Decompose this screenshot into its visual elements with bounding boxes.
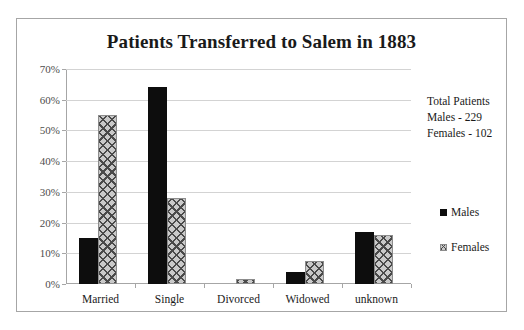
y-tick-label: 50% (40, 124, 60, 136)
legend-entry-females: Females (440, 240, 489, 254)
x-tick-label: Married (82, 293, 119, 305)
x-tick-mark (342, 284, 343, 288)
y-tick-label: 0% (45, 278, 60, 290)
y-tick-label: 60% (40, 94, 60, 106)
legend-label-females: Females (451, 241, 489, 253)
bar-group: Divorced (204, 69, 273, 284)
chart-figure: Patients Transferred to Salem in 1883 70… (0, 0, 524, 330)
annotation-line-males: Males - 229 (427, 109, 492, 125)
x-tick-mark (411, 284, 412, 288)
bar-males-single (148, 87, 167, 284)
bar-females-widowed (305, 261, 324, 284)
plot-area: 70%60%50%40%30%20%10%0% MarriedSingleDiv… (66, 69, 411, 284)
bar-group: Single (135, 69, 204, 284)
x-tick-mark (273, 284, 274, 288)
y-tick-label: 40% (40, 155, 60, 167)
chart-frame: Patients Transferred to Salem in 1883 70… (16, 18, 507, 312)
bar-males-unknown (355, 232, 374, 284)
annotation-line-total: Total Patients (427, 93, 492, 109)
x-tick-label: unknown (355, 293, 398, 305)
x-tick-label: Divorced (217, 293, 260, 305)
bar-females-unknown (374, 235, 393, 284)
x-tick-label: Widowed (285, 293, 329, 305)
bar-females-single (167, 198, 186, 284)
chart-legend: Males Females (440, 205, 489, 275)
totals-annotation: Total Patients Males - 229 Females - 102 (427, 93, 492, 141)
legend-swatch-females-icon (440, 244, 447, 251)
legend-entry-males: Males (440, 205, 489, 219)
bar-group: unknown (342, 69, 411, 284)
bar-males-married (79, 238, 98, 284)
y-tick-label: 70% (40, 63, 60, 75)
y-tick-label: 20% (40, 217, 60, 229)
legend-swatch-males-icon (440, 209, 447, 216)
bar-group: Widowed (273, 69, 342, 284)
y-tick-label: 30% (40, 186, 60, 198)
legend-label-males: Males (451, 206, 479, 218)
annotation-line-females: Females - 102 (427, 125, 492, 141)
x-tick-label: Single (155, 293, 184, 305)
x-tick-mark (135, 284, 136, 288)
bar-females-divorced (236, 279, 255, 284)
bar-males-widowed (286, 272, 305, 284)
bar-females-married (98, 115, 117, 284)
x-tick-mark (204, 284, 205, 288)
y-tick-mark (62, 284, 66, 285)
bar-group: Married (66, 69, 135, 284)
chart-title: Patients Transferred to Salem in 1883 (17, 31, 506, 53)
y-tick-label: 10% (40, 247, 60, 259)
